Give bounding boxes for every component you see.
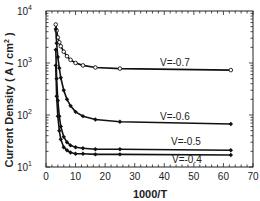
axes-frame bbox=[46, 11, 253, 167]
data-point-marker bbox=[59, 137, 63, 141]
current-density-chart: 010203040506070101102103104V=-0.7V=-0.6V… bbox=[0, 0, 260, 201]
data-point-marker bbox=[229, 153, 233, 157]
data-point-marker bbox=[59, 44, 63, 48]
data-point-marker bbox=[62, 88, 66, 92]
x-tick-label: 30 bbox=[129, 171, 141, 182]
data-point-marker bbox=[118, 147, 122, 151]
data-point-marker bbox=[229, 122, 233, 126]
svg-text:Current Density ( A / cm2 ): Current Density ( A / cm2 ) bbox=[3, 32, 15, 167]
x-tick-label: 50 bbox=[188, 171, 200, 182]
data-point-marker bbox=[54, 63, 58, 67]
data-point-marker bbox=[118, 152, 122, 156]
series-label: V=-0.7 bbox=[160, 57, 190, 68]
data-point-marker bbox=[118, 67, 122, 71]
x-tick-label: 0 bbox=[43, 171, 49, 182]
data-point-marker bbox=[118, 120, 122, 124]
y-tick-label: 103 bbox=[17, 56, 32, 69]
data-point-marker bbox=[73, 145, 77, 149]
x-tick-label: 40 bbox=[159, 171, 171, 182]
data-point-marker bbox=[54, 23, 58, 27]
x-tick-label: 20 bbox=[100, 171, 112, 182]
axes bbox=[46, 11, 253, 167]
data-point-marker bbox=[229, 68, 233, 72]
series-label: V=-0.6 bbox=[160, 111, 190, 122]
data-point-marker bbox=[65, 54, 69, 58]
y-tick-label: 104 bbox=[17, 4, 32, 17]
x-tick-label: 70 bbox=[247, 171, 259, 182]
data-point-marker bbox=[59, 76, 63, 80]
data-point-marker bbox=[57, 66, 61, 70]
x-axis-title: 1000/T bbox=[133, 188, 168, 200]
data-point-marker bbox=[81, 152, 85, 156]
data-point-marker bbox=[229, 148, 233, 152]
series-line bbox=[56, 29, 231, 124]
series-line bbox=[56, 65, 231, 155]
data-point-marker bbox=[93, 152, 97, 156]
data-point-marker bbox=[81, 64, 85, 68]
data-point-marker bbox=[94, 66, 98, 70]
y-axis-title: Current Density ( A / cm2 ) bbox=[3, 32, 15, 167]
series-label: V=-0.5 bbox=[171, 136, 201, 147]
x-tick-label: 60 bbox=[218, 171, 230, 182]
data-point-marker bbox=[73, 152, 77, 156]
data-point-marker bbox=[93, 147, 97, 151]
data-point-marker bbox=[69, 58, 73, 62]
y-tick-label: 101 bbox=[17, 160, 32, 173]
data-point-marker bbox=[93, 117, 97, 121]
data-point-marker bbox=[81, 146, 85, 150]
series-label: V=-0.4 bbox=[172, 154, 202, 165]
data-point-marker bbox=[62, 50, 66, 54]
series-line bbox=[56, 25, 231, 71]
y-tick-label: 102 bbox=[17, 108, 32, 121]
data-point-marker bbox=[74, 61, 78, 65]
x-tick-label: 10 bbox=[70, 171, 82, 182]
series-layer bbox=[54, 23, 233, 158]
